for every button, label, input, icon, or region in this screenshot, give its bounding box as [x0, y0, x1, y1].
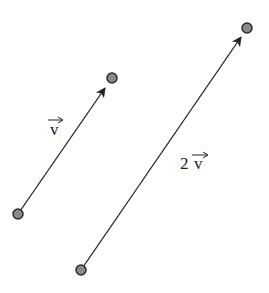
vector-v-line: [18, 88, 105, 214]
vector-v-label: v: [48, 117, 63, 139]
vector-v-start-point: [13, 209, 23, 219]
vector-2v-label: 2 v: [180, 152, 208, 173]
vector-2v-line: [81, 37, 241, 270]
vector-diagram: v 2 v: [0, 0, 269, 293]
vector-2v-label-text: v: [194, 154, 203, 173]
vector-v-label-text: v: [50, 120, 59, 139]
vector-v: v: [13, 73, 117, 219]
vector-2v-start-point: [76, 265, 86, 275]
vector-2v-end-point: [242, 23, 252, 33]
vector-v-end-point: [107, 73, 117, 83]
vector-2v-coefficient: 2: [180, 154, 189, 173]
vector-2v: 2 v: [76, 23, 252, 275]
diagram-svg: v 2 v: [0, 0, 269, 293]
